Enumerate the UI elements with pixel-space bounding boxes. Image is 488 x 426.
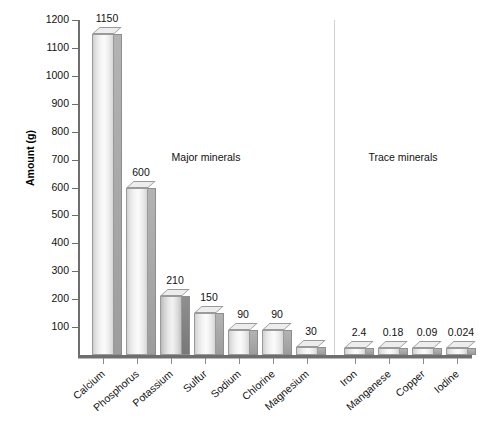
bar-front-face	[126, 188, 148, 356]
y-tick-mark	[72, 76, 78, 77]
y-tick-mark	[72, 327, 78, 328]
y-tick-mark	[72, 188, 78, 189]
bar-side-face	[148, 188, 156, 356]
bar	[344, 341, 374, 355]
y-tick-mark	[72, 215, 78, 216]
x-tick-mark	[205, 358, 206, 364]
x-tick-mark	[355, 358, 356, 364]
bar	[296, 340, 326, 355]
y-tick-label: 700	[51, 153, 69, 165]
bar-side-face	[366, 348, 374, 355]
y-tick-label: 800	[51, 125, 69, 137]
y-tick-mark	[72, 299, 78, 300]
bar-top-face	[378, 341, 408, 348]
bar-side-face	[182, 296, 190, 355]
y-tick-label: 400	[51, 236, 69, 248]
section-caption-major: Major minerals	[78, 151, 334, 163]
y-axis-title: Amount (g)	[24, 116, 36, 200]
bar	[412, 341, 442, 355]
y-tick-label: 1200	[46, 13, 69, 25]
x-tick-mark	[457, 358, 458, 364]
y-tick-label: 200	[51, 292, 69, 304]
bar-value-label: 30	[286, 325, 336, 337]
section-caption-trace: Trace minerals	[334, 151, 472, 163]
bar-value-label: 210	[150, 274, 200, 286]
plot-area: 100200300400500600700800900100011001200 …	[78, 20, 472, 355]
bar	[92, 27, 122, 355]
x-tick-mark	[103, 358, 104, 364]
bar-front-face	[194, 313, 216, 355]
y-tick-label: 500	[51, 208, 69, 220]
y-tick-label: 600	[51, 181, 69, 193]
bar-front-face	[160, 296, 182, 355]
bar-front-face	[228, 330, 250, 355]
bar-top-face	[446, 341, 476, 348]
bar	[228, 323, 258, 355]
bar-top-face	[344, 341, 374, 348]
y-tick-label: 900	[51, 97, 69, 109]
bar-front-face	[262, 330, 284, 355]
bar-value-label: 90	[252, 308, 302, 320]
bar-side-face	[400, 348, 408, 355]
bar-top-face	[92, 27, 122, 34]
bar-side-face	[468, 348, 476, 355]
x-tick-mark	[273, 358, 274, 364]
bar-front-face	[378, 348, 400, 355]
y-tick-mark	[72, 48, 78, 49]
bar-side-face	[434, 348, 442, 355]
section-divider-line	[334, 20, 335, 355]
y-tick-mark	[72, 243, 78, 244]
y-tick-label: 1100	[46, 41, 69, 53]
x-tick-mark	[171, 358, 172, 364]
y-tick-label: 1000	[46, 69, 69, 81]
bar-value-label: 0.024	[436, 326, 486, 338]
bar-top-face	[296, 340, 326, 347]
y-tick-mark	[72, 132, 78, 133]
bar-front-face	[92, 34, 114, 355]
y-tick-mark	[72, 271, 78, 272]
bar-side-face	[250, 330, 258, 355]
bar	[126, 181, 156, 356]
y-axis-line	[78, 20, 80, 356]
bar-front-face	[296, 347, 318, 355]
x-tick-mark	[389, 358, 390, 364]
bar-value-label: 150	[184, 291, 234, 303]
y-tick-label: 300	[51, 264, 69, 276]
y-tick-mark	[72, 20, 78, 21]
bar-top-face	[126, 181, 156, 188]
bar-value-label: 1150	[82, 12, 132, 24]
y-tick-mark	[72, 104, 78, 105]
bar-top-face	[228, 323, 258, 330]
y-tick-label: 100	[51, 320, 69, 332]
bar-top-face	[412, 341, 442, 348]
bar-chart: Amount (g) 10020030040050060070080090010…	[0, 0, 488, 426]
bar-value-label: 600	[116, 166, 166, 178]
x-tick-mark	[137, 358, 138, 364]
bar-front-face	[446, 348, 468, 355]
bar	[446, 341, 476, 355]
bar-front-face	[412, 348, 434, 355]
x-tick-mark	[307, 358, 308, 364]
x-tick-mark	[423, 358, 424, 364]
x-tick-mark	[239, 358, 240, 364]
bar-side-face	[318, 347, 326, 355]
bar	[378, 341, 408, 355]
bar-front-face	[344, 348, 366, 355]
bar-side-face	[114, 34, 122, 355]
